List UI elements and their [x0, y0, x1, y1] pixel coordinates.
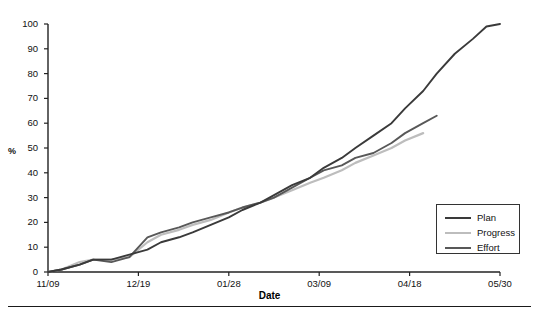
chart-screenshot: 0102030405060708090100 11/0912/1901/2803… [0, 0, 539, 317]
plot-canvas [0, 0, 539, 317]
legend-swatch-progress-icon [445, 232, 471, 234]
legend-swatch-plan-icon [445, 217, 471, 219]
legend-swatch-effort-icon [445, 247, 471, 249]
axes-group [48, 24, 500, 272]
series-line-plan [48, 24, 500, 272]
y-tick-label: 70 [12, 92, 38, 103]
y-tick-label: 20 [12, 216, 38, 227]
x-axis-title: Date [0, 290, 539, 301]
x-tick-label: 03/09 [296, 278, 342, 289]
y-tick-label: 10 [12, 241, 38, 252]
x-tick-label: 12/19 [115, 278, 161, 289]
y-tick-label: 100 [12, 18, 38, 29]
data-series-group [48, 24, 500, 272]
y-axis-title: % [8, 146, 16, 156]
legend-item-effort[interactable]: Effort [445, 243, 500, 252]
x-tick-label: 04/18 [387, 278, 433, 289]
series-line-effort [48, 116, 437, 272]
y-tick-label: 30 [12, 192, 38, 203]
legend-label: Effort [477, 243, 500, 252]
y-tick-label: 0 [12, 266, 38, 277]
x-tick-label: 11/09 [25, 278, 71, 289]
chart-legend: PlanProgressEffort [436, 204, 520, 254]
legend-item-progress[interactable]: Progress [445, 228, 515, 237]
y-tick-label: 90 [12, 43, 38, 54]
x-tick-label: 01/28 [206, 278, 252, 289]
legend-label: Progress [477, 228, 515, 237]
legend-item-plan[interactable]: Plan [445, 213, 496, 222]
progress-line-chart: 0102030405060708090100 11/0912/1901/2803… [0, 0, 539, 317]
y-tick-label: 40 [12, 167, 38, 178]
y-tick-label: 80 [12, 68, 38, 79]
y-tick-label: 60 [12, 117, 38, 128]
x-tick-label: 05/30 [477, 278, 523, 289]
legend-label: Plan [477, 213, 496, 222]
footer-divider [8, 306, 531, 307]
